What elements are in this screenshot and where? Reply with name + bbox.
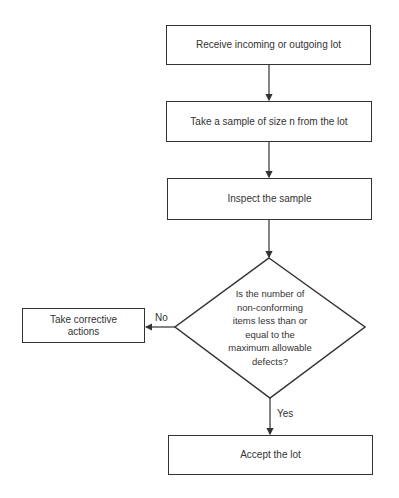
node-corrective: Take corrective actions <box>22 308 145 343</box>
node-inspect: Inspect the sample <box>167 178 372 220</box>
decision-line: maximum allowable <box>200 341 340 355</box>
node-receive-label: Receive incoming or outgoing lot <box>196 39 341 51</box>
node-receive: Receive incoming or outgoing lot <box>166 25 371 65</box>
edge-label-no: No <box>155 312 168 323</box>
node-sample: Take a sample of size n from the lot <box>166 101 372 142</box>
decision-line: items less than or <box>200 314 340 328</box>
decision-line: defects? <box>200 355 340 369</box>
node-inspect-label: Inspect the sample <box>228 193 312 205</box>
connectors <box>0 0 399 498</box>
decision-line: equal to the <box>200 328 340 342</box>
node-accept: Accept the lot <box>168 435 373 475</box>
node-corrective-label: Take corrective actions <box>45 314 122 338</box>
edge-label-yes: Yes <box>277 408 293 419</box>
node-sample-label: Take a sample of size n from the lot <box>190 116 347 128</box>
node-accept-label: Accept the lot <box>240 449 301 461</box>
decision-line: non-conforming <box>200 301 340 315</box>
node-decision-text: Is the number of non-conforming items le… <box>200 287 340 368</box>
decision-line: Is the number of <box>200 287 340 301</box>
